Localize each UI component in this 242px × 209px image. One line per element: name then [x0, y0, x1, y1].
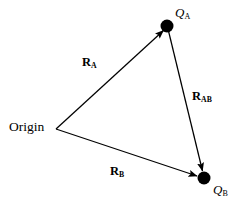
label-point-qb-symbol: Q — [213, 182, 222, 197]
label-point-qa-symbol: Q — [175, 5, 184, 20]
vector-line-rb — [56, 129, 197, 176]
label-point-qa-subscript: A — [184, 12, 190, 21]
label-vector-rab: RAB — [192, 90, 212, 103]
label-vector-ra: RA — [82, 56, 97, 69]
point-marker-qb — [198, 172, 211, 185]
label-vector-rb-subscript: B — [119, 170, 124, 179]
label-vector-rab-symbol: R — [192, 89, 201, 103]
label-vector-rb: RB — [110, 165, 124, 178]
label-vector-ra-subscript: A — [91, 61, 97, 70]
label-point-qb: QB — [213, 183, 228, 196]
label-point-qb-subscript: B — [222, 189, 228, 198]
label-origin: Origin — [9, 120, 44, 134]
vector-diagram-figure: Origin QA QB RA RAB RB — [0, 0, 242, 209]
label-vector-rb-symbol: R — [110, 164, 119, 178]
label-vector-ra-symbol: R — [82, 55, 91, 69]
point-marker-qa — [161, 20, 174, 33]
label-point-qa: QA — [175, 6, 190, 19]
label-vector-rab-subscript: AB — [201, 95, 212, 104]
vector-line-ra — [56, 31, 164, 130]
